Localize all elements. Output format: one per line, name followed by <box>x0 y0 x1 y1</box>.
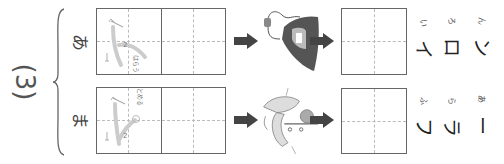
start-kana-text: ま <box>69 112 94 129</box>
stroke-number-2: 2 <box>123 132 127 140</box>
furigana: あ <box>477 94 488 102</box>
katakana-char: ラ <box>440 118 467 137</box>
exercise-number-text: (3) <box>10 64 40 101</box>
katakana-char: フ <box>412 118 439 137</box>
answer-box-row2[interactable] <box>341 88 407 154</box>
stroke-hint: はらう <box>132 55 141 73</box>
arrow-right-icon <box>234 112 258 128</box>
exercise-number: (3) <box>8 58 42 106</box>
trace-grid-row1[interactable]: 2 はらう <box>96 8 226 75</box>
start-kana-ma: ま <box>70 109 92 131</box>
stroke-hint: とめる <box>136 88 145 106</box>
furigana: ら <box>447 96 458 104</box>
arrow-right-icon <box>310 112 334 128</box>
trace-stroke-guide <box>101 13 159 71</box>
katakana-char: ー <box>470 116 497 135</box>
trace-stroke-guide <box>101 92 159 150</box>
furigana: ん <box>477 16 488 24</box>
katakana-char: ン <box>470 38 497 57</box>
answer-box-row1[interactable] <box>341 8 407 75</box>
stroke-number-2: 2 <box>123 41 127 49</box>
start-kana-a: あ <box>70 31 92 53</box>
furigana: ろ <box>447 16 458 24</box>
furigana: い <box>419 18 430 26</box>
arrow-right-icon <box>234 33 258 49</box>
trace-grid-row2[interactable]: 2 とめる <box>96 87 226 154</box>
katakana-char: ロ <box>440 38 467 57</box>
start-kana-text: あ <box>69 34 94 51</box>
arrow-right-icon <box>310 33 334 49</box>
answer-katakana-row2: ふ フ ら ラ あ ー <box>414 90 504 150</box>
answer-katakana-row1: い イ ろ ロ ん ン <box>414 12 504 72</box>
curly-brace <box>52 8 66 156</box>
furigana: ふ <box>419 96 430 104</box>
katakana-char: イ <box>412 40 439 59</box>
